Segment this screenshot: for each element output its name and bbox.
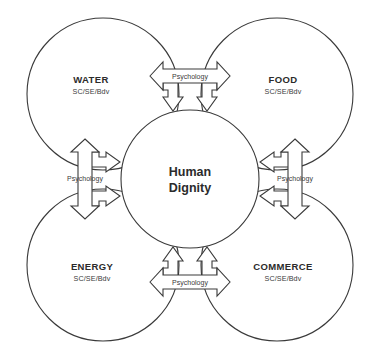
node-sublabel-water: SC/SE/Bdv: [73, 87, 110, 96]
node-sublabel-food: SC/SE/Bdv: [265, 87, 302, 96]
node-sublabel-commerce: SC/SE/Bdv: [265, 274, 302, 283]
connector-left-label: Psychology: [67, 175, 103, 183]
node-title-energy: ENERGY: [71, 261, 114, 272]
connector-right-label: Psychology: [277, 175, 313, 183]
human-dignity-diagram: Psychology Psychology Psychology: [0, 0, 374, 353]
center-title-line1: Human: [169, 165, 211, 179]
node-title-water: WATER: [73, 74, 108, 85]
node-title-food: FOOD: [269, 74, 298, 85]
center-title-line2: Dignity: [169, 181, 211, 195]
center-circle-human-dignity[interactable]: [121, 110, 259, 248]
node-sublabel-energy: SC/SE/Bdv: [74, 274, 111, 283]
connector-top-label: Psychology: [172, 73, 208, 81]
diagram-canvas: Psychology Psychology Psychology: [0, 0, 374, 353]
connector-bottom-label: Psychology: [172, 279, 208, 287]
node-title-commerce: COMMERCE: [253, 261, 312, 272]
